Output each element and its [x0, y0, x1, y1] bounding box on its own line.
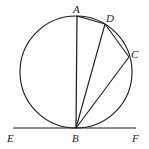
chord-BC [76, 57, 129, 128]
chord-DC [105, 24, 129, 57]
label-B: B [72, 132, 79, 144]
label-E: E [6, 132, 14, 144]
chord-BD [76, 24, 105, 128]
label-D: D [105, 12, 114, 24]
geometry-diagram: A D C E B F [0, 0, 149, 149]
label-A: A [72, 3, 80, 15]
label-F: F [131, 132, 139, 144]
label-C: C [131, 48, 139, 60]
chord-AD [77, 16, 105, 24]
chord-AB [76, 16, 77, 128]
